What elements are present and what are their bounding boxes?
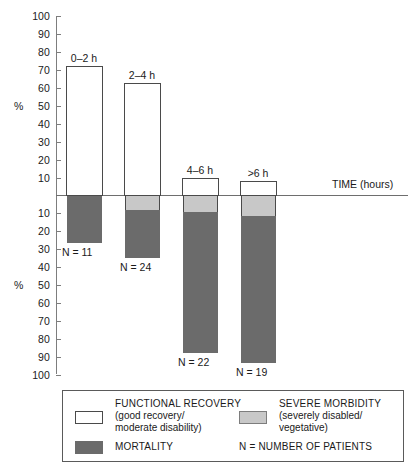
y-tick-lower-50: [56, 285, 61, 286]
y-axis-label-lower-30: 30: [24, 244, 50, 255]
y-tick-upper-40: [56, 124, 61, 125]
legend-swatch-severe-morbidity: [239, 411, 267, 424]
legend-desc-functional-recovery-line1: (good recovery/: [115, 410, 184, 422]
y-tick-lower-90: [56, 357, 61, 358]
y-label-wrap-lower-40: 40: [22, 262, 50, 273]
y-tick-lower-20: [56, 231, 61, 232]
bar-segment-recovery-gt6h[interactable]: [240, 181, 277, 196]
y-axis-label-lower-10: 10: [24, 208, 50, 219]
bar-segment-morbidity-4-6h[interactable]: [183, 196, 218, 212]
y-axis-label-lower-80: 80: [24, 334, 50, 345]
bar-n-label-gt6h: N = 19: [236, 367, 267, 378]
legend-desc-functional-recovery-line2: moderate disability): [115, 422, 202, 434]
y-axis-label-upper-30: 30: [24, 137, 50, 148]
y-tick-lower-60: [56, 303, 61, 304]
y-label-wrap-lower-20: 20: [22, 226, 50, 237]
y-label-wrap-lower-70: 70: [22, 316, 50, 327]
y-tick-lower-70: [56, 321, 61, 322]
stacked-bar-chart: 100 90 80 70 60 50 40 30 20 10 10 20 30 …: [0, 0, 412, 476]
legend: FUNCTIONAL RECOVERY (good recovery/ mode…: [62, 390, 404, 462]
time-axis-line: [56, 195, 408, 196]
y-label-wrap-lower-100: 100: [22, 370, 50, 381]
y-label-wrap-lower-10: 10: [22, 208, 50, 219]
y-label-wrap-upper-40: 40: [22, 119, 50, 130]
y-tick-lower-80: [56, 339, 61, 340]
y-axis-label-upper-40: 40: [24, 119, 50, 130]
legend-swatch-mortality: [75, 441, 103, 454]
y-tick-upper-100: [56, 16, 61, 17]
y-axis-label-lower-60: 60: [24, 298, 50, 309]
y-label-wrap-upper-60: 60: [22, 83, 50, 94]
y-axis-label-upper-80: 80: [24, 47, 50, 58]
y-axis-label-upper-50: 50: [24, 101, 50, 112]
y-axis-label-lower-40: 40: [24, 262, 50, 273]
y-axis-label-upper-70: 70: [24, 65, 50, 76]
x-axis-title: TIME (hours): [332, 179, 393, 190]
bar-n-label-0-2h: N = 11: [62, 247, 92, 258]
y-tick-lower-40: [56, 267, 61, 268]
bar-segment-morbidity-gt6h[interactable]: [241, 196, 276, 216]
y-label-wrap-upper-20: 20: [22, 155, 50, 166]
y-label-wrap-lower-30: 30: [22, 244, 50, 255]
y-axis-label-lower-20: 20: [24, 226, 50, 237]
bar-segment-mortality-gt6h[interactable]: [241, 216, 276, 363]
y-tick-upper-10: [56, 178, 61, 179]
bar-category-label-0-2h: 0–2 h: [63, 53, 105, 64]
legend-desc-severe-morbidity-line1: (severely disabled/: [279, 410, 362, 422]
legend-title-functional-recovery: FUNCTIONAL RECOVERY: [115, 398, 241, 410]
y-tick-upper-30: [56, 142, 61, 143]
y-label-wrap-upper-90: 90: [22, 29, 50, 40]
y-axis-label-lower-100: 100: [24, 370, 50, 381]
y-axis-label-upper-20: 20: [24, 155, 50, 166]
legend-note-n-definition: N = NUMBER OF PATIENTS: [239, 441, 372, 453]
bar-segment-recovery-2-4h[interactable]: [124, 83, 161, 196]
y-label-wrap-lower-80: 80: [22, 334, 50, 345]
y-axis-label-lower-70: 70: [24, 316, 50, 327]
legend-title-severe-morbidity: SEVERE MORBIDITY: [279, 398, 381, 410]
bar-n-label-4-6h: N = 22: [178, 357, 209, 368]
y-label-wrap-upper-10: 10: [22, 173, 50, 184]
y-axis-label-upper-100: 100: [24, 11, 50, 22]
y-axis-title-upper: %: [14, 101, 23, 112]
y-axis-title-lower: %: [14, 280, 23, 291]
y-label-wrap-lower-90: 90: [22, 352, 50, 363]
bar-segment-recovery-4-6h[interactable]: [182, 178, 219, 196]
bar-segment-mortality-2-4h[interactable]: [125, 210, 160, 258]
y-label-wrap-upper-100: 100: [22, 11, 50, 22]
y-axis-label-lower-90: 90: [24, 352, 50, 363]
y-tick-upper-80: [56, 52, 61, 53]
y-tick-upper-50: [56, 106, 61, 107]
y-axis-label-upper-10: 10: [24, 173, 50, 184]
y-tick-upper-90: [56, 34, 61, 35]
y-tick-lower-100: [56, 375, 61, 376]
y-tick-lower-10: [56, 213, 61, 214]
y-tick-upper-60: [56, 88, 61, 89]
bar-category-label-2-4h: 2–4 h: [121, 70, 163, 81]
bar-segment-mortality-4-6h[interactable]: [183, 212, 218, 353]
bar-segment-recovery-0-2h[interactable]: [66, 66, 103, 196]
bar-segment-morbidity-2-4h[interactable]: [125, 196, 160, 210]
y-axis-label-upper-60: 60: [24, 83, 50, 94]
y-label-wrap-lower-50: 50: [22, 280, 50, 291]
y-axis-label-upper-90: 90: [24, 29, 50, 40]
legend-swatch-functional-recovery: [75, 411, 103, 424]
y-tick-upper-70: [56, 70, 61, 71]
bar-category-label-gt6h: >6 h: [237, 168, 279, 179]
y-label-wrap-upper-70: 70: [22, 65, 50, 76]
y-tick-upper-20: [56, 160, 61, 161]
bar-segment-mortality-0-2h[interactable]: [67, 196, 102, 243]
y-label-wrap-lower-60: 60: [22, 298, 50, 309]
legend-desc-severe-morbidity-line2: vegetative): [279, 422, 328, 434]
y-axis-label-lower-50: 50: [24, 280, 50, 291]
y-label-wrap-upper-30: 30: [22, 137, 50, 148]
y-label-wrap-upper-50: 50: [22, 101, 50, 112]
y-label-wrap-upper-80: 80: [22, 47, 50, 58]
bar-n-label-2-4h: N = 24: [120, 262, 151, 273]
y-tick-lower-30: [56, 249, 61, 250]
legend-title-mortality: MORTALITY: [115, 441, 173, 453]
bar-category-label-4-6h: 4–6 h: [179, 165, 221, 176]
